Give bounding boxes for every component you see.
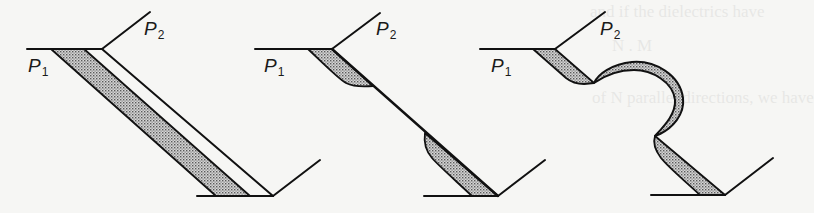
- panel-1-shaded-layer: [51, 49, 250, 196]
- panel-3-p2-arm: [555, 12, 605, 49]
- panel-2-p1-letter: P: [264, 55, 277, 76]
- panel-2-label-p2: P2: [376, 19, 396, 41]
- panel-3-diagram: [480, 12, 773, 195]
- panel-3-p1-letter: P: [491, 55, 504, 76]
- panel-3-shaded-hoop: [594, 62, 683, 136]
- panel-1-label-p1: P1: [28, 56, 48, 78]
- panel-3-shaded-upper: [533, 49, 594, 84]
- panel-3-label-p1: P1: [491, 56, 511, 78]
- panel-2-p2-arm: [332, 13, 380, 49]
- panel-2-shaded-upper: [308, 49, 373, 86]
- panel-1-diagram: [27, 12, 320, 196]
- panel-1-p2-arm: [102, 12, 150, 49]
- panel-2-thin-interface: [332, 49, 498, 196]
- panel-1-p2-letter: P: [144, 18, 157, 39]
- panel-3-p2-letter: P: [600, 18, 613, 39]
- panel-1-clear-layer-edge: [102, 49, 273, 196]
- panel-1-p1-letter: P: [28, 55, 41, 76]
- panel-3-label-p2: P2: [600, 19, 620, 41]
- panel-2-p2-letter: P: [376, 18, 389, 39]
- panel-1-p1-subscript: 1: [42, 65, 49, 79]
- panel-3-bottom-arm: [725, 158, 773, 195]
- panel-3-p2-subscript: 2: [614, 28, 621, 42]
- panel-3-shaded-lower: [654, 136, 725, 195]
- panel-3-p1-subscript: 1: [505, 65, 512, 79]
- panel-2-bottom-arm: [498, 160, 545, 196]
- panel-1-p2-subscript: 2: [158, 28, 165, 42]
- panel-2-p1-subscript: 1: [278, 65, 285, 79]
- panel-2-label-p1: P1: [264, 56, 284, 78]
- panel-2-p2-subscript: 2: [390, 28, 397, 42]
- panel-1-bottom-arm: [273, 160, 320, 196]
- panel-2-diagram: [255, 13, 545, 196]
- panel-1-label-p2: P2: [144, 19, 164, 41]
